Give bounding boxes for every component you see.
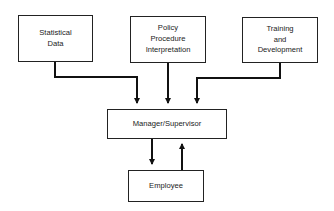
- statistical-data-label: Statistical Data: [39, 28, 72, 50]
- manager-supervisor-label: Manager/Supervisor: [133, 119, 201, 130]
- statistical-data-box: Statistical Data: [18, 15, 93, 62]
- arrow-training-to-manager: [197, 62, 280, 103]
- employee-label: Employee: [149, 181, 183, 192]
- policy-procedure-box: Policy Procedure Interpretation: [130, 16, 206, 63]
- arrow-statistical-to-manager: [55, 61, 137, 103]
- manager-supervisor-box: Manager/Supervisor: [107, 109, 227, 139]
- training-development-box: Training and Development: [242, 17, 318, 63]
- policy-procedure-label: Policy Procedure Interpretation: [146, 23, 191, 55]
- employee-box: Employee: [128, 170, 204, 202]
- training-development-label: Training and Development: [258, 24, 303, 56]
